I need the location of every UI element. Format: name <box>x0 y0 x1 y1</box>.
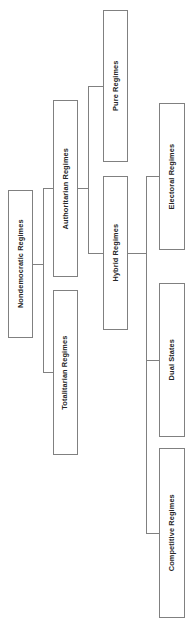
node-label-competitive-regimes: Competitive Regimes <box>168 494 175 571</box>
connector-branch-totalitarian <box>43 372 53 373</box>
connector-auth-spine <box>88 86 89 253</box>
node-label-hybrid-regimes: Hybrid Regimes <box>112 224 119 282</box>
connector-root-spine <box>43 188 44 373</box>
connector-branch-competitive <box>146 533 159 534</box>
connector-root-stub <box>33 264 43 265</box>
connector-branch-pure <box>88 86 103 87</box>
node-label-nondemocratic-regimes: Nondemocratic Regimes <box>17 220 24 309</box>
node-totalitarian-regimes[interactable]: Totalitarian Regimes <box>53 290 78 455</box>
node-nondemocratic-regimes[interactable]: Nondemocratic Regimes <box>8 190 33 338</box>
connector-branch-dual <box>146 360 159 361</box>
connector-branch-electoral <box>146 176 159 177</box>
connector-branch-authoritarian <box>43 188 53 189</box>
diagram-canvas: Nondemocratic RegimesAuthoritarian Regim… <box>0 0 195 636</box>
node-competitive-regimes[interactable]: Competitive Regimes <box>159 448 185 618</box>
node-dual-states[interactable]: Dual States <box>159 283 185 437</box>
node-electoral-regimes[interactable]: Electoral Regimes <box>159 103 185 250</box>
connector-branch-hybrid <box>88 253 103 254</box>
node-label-pure-regimes: Pure Regimes <box>112 61 119 112</box>
node-label-dual-states: Dual States <box>168 339 175 380</box>
node-label-totalitarian-regimes: Totalitarian Regimes <box>62 335 69 409</box>
connector-hybrid-stub <box>128 253 146 254</box>
node-hybrid-regimes[interactable]: Hybrid Regimes <box>103 176 128 330</box>
node-pure-regimes[interactable]: Pure Regimes <box>103 10 128 162</box>
connector-hybrid-spine <box>146 176 147 533</box>
node-authoritarian-regimes[interactable]: Authoritarian Regimes <box>53 100 78 277</box>
node-label-authoritarian-regimes: Authoritarian Regimes <box>62 148 69 229</box>
node-label-electoral-regimes: Electoral Regimes <box>168 144 175 210</box>
connector-auth-stub <box>78 188 88 189</box>
